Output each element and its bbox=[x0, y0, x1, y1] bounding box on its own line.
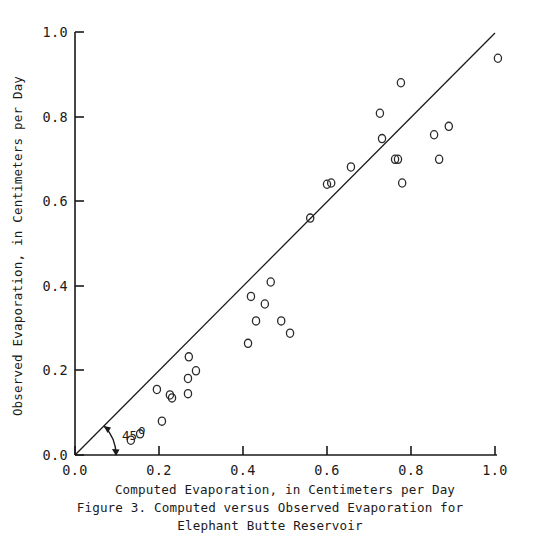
data-point bbox=[431, 131, 438, 139]
data-point bbox=[376, 109, 383, 117]
x-axis-tick-labels: 0.0 0.2 0.4 0.6 0.8 1.0 bbox=[62, 462, 508, 478]
data-point bbox=[261, 300, 268, 308]
x-ticklabel-0: 0.0 bbox=[62, 462, 88, 478]
x-ticklabel-5: 1.0 bbox=[482, 462, 508, 478]
data-point bbox=[445, 122, 452, 130]
data-point bbox=[347, 163, 354, 171]
data-point bbox=[244, 339, 251, 347]
y-ticklabel-1: 0.2 bbox=[42, 362, 68, 378]
x-ticklabel-3: 0.6 bbox=[314, 462, 340, 478]
y-ticklabel-5: 1.0 bbox=[42, 24, 68, 40]
figure-container: Observed Evaporation, in Centimeters per… bbox=[0, 0, 539, 549]
data-point bbox=[397, 79, 404, 87]
figure-caption-line2: Elephant Butte Reservoir bbox=[177, 518, 363, 533]
data-point bbox=[278, 317, 285, 325]
data-points-layer bbox=[127, 54, 501, 444]
data-point bbox=[252, 317, 259, 325]
angle-arrow-upper bbox=[104, 426, 111, 433]
x-ticklabel-4: 0.8 bbox=[398, 462, 424, 478]
data-point bbox=[153, 385, 160, 393]
x-ticklabel-2: 0.4 bbox=[230, 462, 256, 478]
x-axis-title: Computed Evaporation, in Centimeters per… bbox=[115, 482, 455, 497]
data-point bbox=[158, 417, 165, 425]
data-point bbox=[436, 155, 443, 163]
data-point bbox=[247, 292, 254, 300]
data-point bbox=[328, 179, 335, 187]
figure-caption-line1: Figure 3. Computed versus Observed Evapo… bbox=[77, 500, 464, 515]
y-ticklabel-0: 0.0 bbox=[42, 447, 68, 463]
x-ticklabel-1: 0.2 bbox=[146, 462, 172, 478]
data-point bbox=[267, 278, 274, 286]
data-point bbox=[184, 390, 191, 398]
data-point bbox=[494, 54, 501, 62]
y-axis-title: Observed Evaporation, in Centimeters per… bbox=[10, 76, 25, 416]
reference-line-45deg bbox=[75, 33, 495, 455]
angle-annotation: 45 o bbox=[104, 422, 146, 456]
data-point bbox=[192, 367, 199, 375]
data-point bbox=[286, 329, 293, 337]
y-ticklabel-3: 0.6 bbox=[42, 193, 68, 209]
y-axis-tick-labels: 1.0 0.8 0.6 0.4 0.2 0.0 bbox=[42, 24, 68, 463]
y-axis-ticks bbox=[75, 32, 84, 455]
data-point bbox=[378, 135, 385, 143]
data-point bbox=[185, 353, 192, 361]
x-axis-ticks bbox=[75, 446, 495, 455]
y-ticklabel-2: 0.4 bbox=[42, 278, 68, 294]
evaporation-scatter-plot: Observed Evaporation, in Centimeters per… bbox=[0, 0, 539, 549]
data-point bbox=[184, 374, 191, 382]
data-point bbox=[399, 179, 406, 187]
y-ticklabel-4: 0.8 bbox=[42, 109, 68, 125]
